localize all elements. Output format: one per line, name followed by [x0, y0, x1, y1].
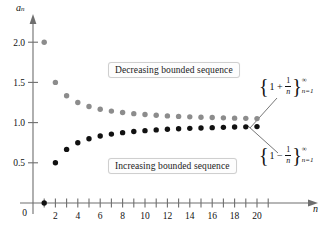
lower-superscript: ∞: [302, 146, 314, 153]
data-point: [42, 200, 47, 205]
data-point: [210, 125, 215, 130]
data-point: [42, 40, 47, 45]
x-axis-label: n: [313, 203, 318, 214]
data-point: [64, 147, 69, 152]
data-point: [86, 104, 91, 109]
sequence-plot: 2.0 1.5 1.0 0.5 0 2 4 6 8 10 12 14: [0, 0, 330, 232]
x-tick-label: 18: [230, 211, 240, 221]
brace-close-lower: }: [292, 145, 302, 165]
leader-line-upper: [250, 98, 277, 128]
data-point: [198, 125, 203, 130]
lower-fraction-denominator: n: [285, 157, 291, 165]
data-point: [109, 131, 114, 136]
data-point: [98, 107, 103, 112]
data-point: [232, 124, 237, 129]
x-tick-label: 16: [207, 211, 217, 221]
y-axis-label: an: [16, 2, 25, 13]
data-point: [198, 115, 203, 120]
x-tick-label: 14: [185, 211, 195, 221]
brace-open-upper: {: [259, 76, 269, 96]
y-tick-label: 1.0: [13, 118, 25, 128]
lower-limits: ∞ n=1: [302, 146, 314, 164]
origin-label: 0: [22, 208, 27, 218]
data-point: [53, 80, 58, 85]
y-axis-arrow: [30, 14, 37, 24]
upper-one: 1: [270, 81, 275, 92]
upper-subscript: n=1: [302, 88, 314, 95]
x-tick-label: 8: [120, 211, 125, 221]
expression-upper-sequence: { 1 + 1 n } ∞ n=1: [259, 76, 314, 96]
data-point: [243, 116, 248, 121]
y-tick-label: 2.0: [13, 38, 25, 48]
x-tick-label: 6: [98, 211, 103, 221]
upper-fraction: 1 n: [285, 77, 291, 96]
y-tick-label: 1.5: [13, 78, 25, 88]
data-point: [232, 115, 237, 120]
data-point: [98, 133, 103, 138]
data-point: [187, 114, 192, 119]
data-point: [221, 125, 226, 130]
x-tick-label: 10: [140, 211, 150, 221]
data-point: [254, 116, 259, 121]
caption-increasing: Increasing bounded sequence: [108, 158, 237, 174]
data-point: [221, 115, 226, 120]
x-axis-tick-labels: 2 4 6 8 10 12 14 16 18 20: [53, 211, 262, 221]
upper-operator: +: [277, 81, 283, 92]
lower-fraction-numerator: 1: [285, 146, 291, 154]
upper-limits: ∞ n=1: [302, 77, 314, 95]
x-tick-label: 12: [163, 211, 173, 221]
data-point: [53, 160, 58, 165]
data-point: [243, 124, 248, 129]
lower-fraction: 1 n: [285, 146, 291, 165]
y-axis-tick-labels: 2.0 1.5 1.0 0.5 0: [13, 38, 27, 219]
data-point: [176, 126, 181, 131]
data-point: [142, 128, 147, 133]
upper-superscript: ∞: [302, 77, 314, 84]
data-point: [75, 140, 80, 145]
data-point: [64, 93, 69, 98]
y-tick-label: 0.5: [13, 158, 25, 168]
brace-open-lower: {: [259, 145, 269, 165]
data-point: [131, 129, 136, 134]
upper-fraction-denominator: n: [285, 88, 291, 96]
brace-close-upper: }: [292, 76, 302, 96]
data-point: [176, 114, 181, 119]
data-point: [120, 130, 125, 135]
x-axis-ticks: [44, 199, 268, 208]
data-point: [131, 111, 136, 116]
data-point: [142, 112, 147, 117]
data-point: [86, 136, 91, 141]
data-point: [75, 100, 80, 105]
data-point: [109, 108, 114, 113]
series-decreasing-points: [42, 40, 260, 122]
data-point: [187, 126, 192, 131]
caption-decreasing: Decreasing bounded sequence: [108, 62, 240, 78]
data-point: [154, 113, 159, 118]
x-tick-label: 2: [53, 211, 58, 221]
lower-one: 1: [270, 150, 275, 161]
x-tick-label: 20: [252, 211, 262, 221]
expression-lower-sequence: { 1 − 1 n } ∞ n=1: [259, 145, 314, 165]
upper-fraction-numerator: 1: [285, 77, 291, 85]
lower-operator: −: [277, 150, 283, 161]
data-point: [210, 115, 215, 120]
data-point: [154, 127, 159, 132]
data-point: [165, 113, 170, 118]
data-point: [254, 124, 259, 129]
data-point: [165, 127, 170, 132]
y-axis-label-subscript: n: [21, 5, 25, 13]
data-point: [120, 110, 125, 115]
x-tick-label: 4: [75, 211, 80, 221]
lower-subscript: n=1: [302, 157, 314, 164]
